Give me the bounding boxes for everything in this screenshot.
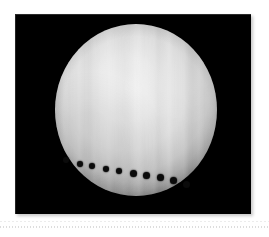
transit-dot <box>183 181 190 188</box>
transit-dot <box>130 170 137 177</box>
transit-dot <box>143 172 150 179</box>
bottom-dotted-rule <box>0 226 269 228</box>
figure-frame <box>15 14 251 214</box>
bottom-dotted-rule-soft <box>0 221 269 222</box>
transit-dot <box>157 174 164 181</box>
transit-dot <box>170 177 177 184</box>
page-canvas <box>0 0 269 237</box>
transit-dot <box>63 157 69 163</box>
